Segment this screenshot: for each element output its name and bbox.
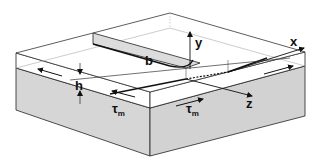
width-b-label: b — [145, 53, 153, 68]
thickness-h-label: h — [75, 78, 83, 93]
x-axis-label: x — [290, 34, 298, 49]
y-axis-label: y — [195, 35, 203, 50]
film-substrate-diagram: y x z b h τm τm — [0, 0, 320, 164]
z-axis-label: z — [246, 96, 253, 111]
